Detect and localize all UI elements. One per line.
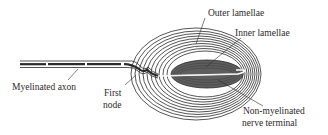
- label-terminal-line1: Non-myelinated: [243, 106, 305, 116]
- label-first-node-line1: First: [104, 88, 121, 98]
- label-inner-lamellae: Inner lamellae: [235, 28, 290, 38]
- label-outer-lamellae: Outer lamellae: [208, 8, 264, 18]
- label-myelinated-axon: Myelinated axon: [12, 82, 76, 92]
- label-terminal-line2: nerve terminal: [242, 118, 297, 128]
- label-first-node-line2: node: [103, 100, 121, 110]
